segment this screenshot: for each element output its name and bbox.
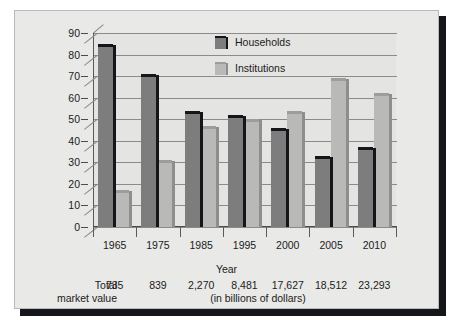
x-axis-tick (309, 226, 310, 237)
bar-households-2000 (271, 128, 286, 227)
bar-front-face (228, 118, 243, 227)
light-gray-swatch-icon (215, 62, 228, 75)
dark-gray-swatch-icon (215, 36, 228, 49)
y-axis-tick-label: 60 (68, 92, 80, 104)
bar-side-face (330, 157, 333, 227)
gridline-depth-tick (84, 206, 97, 217)
bar-institutions-2010 (374, 93, 389, 227)
bar-side-face (216, 127, 219, 227)
x-axis-tick-label-1965: 1965 (103, 239, 126, 251)
bar-front-face (185, 114, 200, 227)
totals-label-line2: market value (37, 292, 117, 305)
y-axis-tick (81, 205, 88, 206)
bar-front-face (141, 77, 156, 227)
y-axis-tick (81, 33, 88, 34)
bar-front-face (374, 96, 389, 227)
bar-side-face (259, 120, 262, 227)
bar-side-face (156, 75, 159, 227)
y-axis-tick-label: 50 (68, 113, 80, 125)
gridline-depth-tick (84, 184, 97, 195)
x-axis-tick-end (396, 226, 397, 237)
gridline-depth-tick (84, 119, 97, 130)
y-axis-tick-label: 70 (68, 70, 80, 82)
bar-households-1985 (185, 111, 200, 227)
x-axis-tick-label-2010: 2010 (363, 239, 386, 251)
bar-group (315, 33, 346, 227)
bar-side-face (302, 112, 305, 227)
y-axis-tick (81, 141, 88, 142)
bar-households-1975 (141, 74, 156, 227)
bar-front-face (315, 159, 330, 227)
x-axis-tick (223, 226, 224, 237)
y-axis-tick (81, 98, 88, 99)
x-axis-tick-label-1975: 1975 (146, 239, 169, 251)
bar-group (185, 33, 216, 227)
figure-shadow-right (439, 16, 446, 316)
x-axis-tick-label-1985: 1985 (190, 239, 213, 251)
total-market-value-2010: 23,293 (358, 279, 390, 291)
x-axis-tick (180, 226, 181, 237)
gridline-depth-tick (84, 98, 97, 109)
x-axis-tick (266, 226, 267, 237)
bar-side-face (113, 45, 116, 227)
bar-front-face (287, 114, 302, 227)
chart-figure: 0102030405060708090 19651975198519952000… (14, 10, 446, 316)
y-axis-tick-label: 10 (68, 199, 80, 211)
bar-households-2010 (358, 147, 373, 227)
total-market-value-2000: 17,627 (272, 279, 304, 291)
bar-front-face (244, 122, 259, 227)
bar-institutions-2000 (287, 111, 302, 227)
bar-front-face (114, 193, 129, 227)
y-axis-tick-label: 30 (68, 156, 80, 168)
bar-side-face (129, 191, 132, 227)
totals-units-label: (in billions of dollars) (210, 292, 306, 304)
x-axis-title: Year (216, 263, 237, 275)
gridline-depth-tick (84, 162, 97, 173)
legend-item-households: Households (215, 33, 290, 51)
bar-side-face (389, 94, 392, 227)
bar-households-2005 (315, 156, 330, 227)
y-axis-tick (81, 119, 88, 120)
y-axis-tick (81, 227, 88, 228)
bar-group (141, 33, 172, 227)
x-axis-tick (93, 226, 94, 237)
bar-group (358, 33, 389, 227)
y-axis-tick (81, 184, 88, 185)
bar-institutions-2005 (331, 78, 346, 227)
total-market-value-1995: 8,481 (231, 279, 257, 291)
bar-institutions-1995 (244, 119, 259, 227)
x-axis-tick-label-2005: 2005 (319, 239, 342, 251)
bar-institutions-1985 (201, 126, 216, 227)
bar-households-1995 (228, 115, 243, 227)
y-axis-tick (81, 76, 88, 77)
total-market-value-1985: 2,270 (188, 279, 214, 291)
chart-panel: 0102030405060708090 19651975198519952000… (14, 10, 439, 309)
x-axis-tick (353, 226, 354, 237)
total-market-value-2005: 18,512 (315, 279, 347, 291)
bar-front-face (157, 163, 172, 227)
bar-front-face (358, 150, 373, 227)
y-axis-tick-label: 80 (68, 49, 80, 61)
totals-table: Total market value (in billions of dolla… (15, 279, 440, 313)
legend-label-households: Households (235, 36, 290, 48)
bar-front-face (331, 81, 346, 227)
bar-institutions-1975 (157, 160, 172, 227)
y-axis-tick-label: 40 (68, 135, 80, 147)
x-axis-tick (136, 226, 137, 237)
y-axis-tick-label: 90 (68, 27, 80, 39)
gridline-depth-tick (84, 76, 97, 87)
gridline: 0 (94, 227, 397, 228)
gridline-depth-tick (84, 141, 97, 152)
bar-institutions-1965 (114, 190, 129, 227)
y-axis-tick-label: 0 (74, 221, 80, 233)
y-axis-tick-label: 20 (68, 178, 80, 190)
gridline-depth-tick (84, 227, 97, 238)
x-axis-tick-label-1995: 1995 (233, 239, 256, 251)
total-market-value-1965: 735 (106, 279, 124, 291)
y-axis-tick (81, 55, 88, 56)
bar-side-face (373, 148, 376, 227)
y-axis-tick (81, 162, 88, 163)
bar-households-1965 (98, 44, 113, 227)
legend-item-institutions: Institutions (215, 59, 290, 77)
bar-side-face (243, 116, 246, 227)
